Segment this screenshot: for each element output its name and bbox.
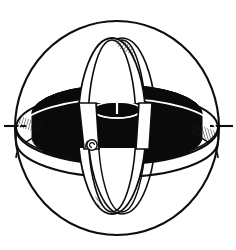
vertical-gimbal-rear-strut-over-rotor (136, 103, 152, 149)
lower-left-scroll-knob (86, 140, 97, 150)
scroll-knob-outer (87, 140, 97, 150)
gyroscope-illustration: Gyroscope in gimbal sphere Line-art illu… (0, 0, 236, 250)
gyroscope-figure: Gyroscope in gimbal sphere Line-art illu… (0, 0, 236, 250)
